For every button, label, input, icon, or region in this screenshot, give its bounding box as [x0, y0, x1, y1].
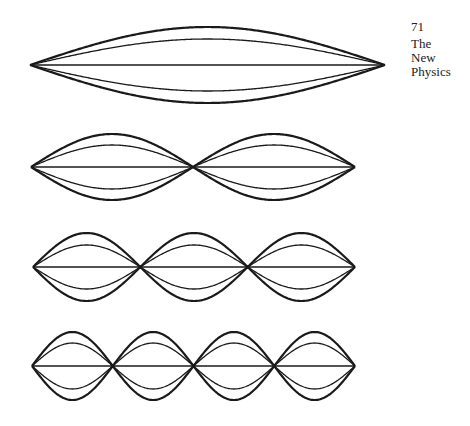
running-head: The New Physics — [411, 37, 451, 79]
standing-wave-mode-3 — [33, 233, 355, 301]
page-number: 71 — [411, 20, 424, 34]
inner-envelope-bottom — [31, 167, 355, 189]
standing-wave-mode-1 — [30, 27, 385, 103]
standing-wave-mode-2 — [31, 134, 355, 200]
outer-envelope-top — [30, 27, 385, 65]
inner-envelope-top — [31, 145, 355, 167]
outer-envelope-top — [33, 233, 355, 267]
standing-wave-figure — [0, 0, 470, 426]
running-head-line-1: The — [411, 37, 451, 51]
running-head-line-2: New — [411, 51, 451, 65]
outer-envelope-top — [32, 332, 355, 366]
outer-envelope-bottom — [33, 267, 355, 301]
outer-envelope-bottom — [31, 167, 355, 200]
inner-envelope-bottom — [32, 366, 355, 389]
inner-envelope-top — [30, 39, 385, 65]
running-head-line-3: Physics — [411, 65, 451, 79]
inner-envelope-top — [32, 343, 355, 366]
outer-envelope-bottom — [30, 65, 385, 103]
inner-envelope-top — [33, 245, 355, 267]
inner-envelope-bottom — [30, 65, 385, 91]
outer-envelope-bottom — [32, 366, 355, 400]
standing-wave-mode-4 — [32, 332, 355, 400]
inner-envelope-bottom — [33, 267, 355, 289]
outer-envelope-top — [31, 134, 355, 167]
